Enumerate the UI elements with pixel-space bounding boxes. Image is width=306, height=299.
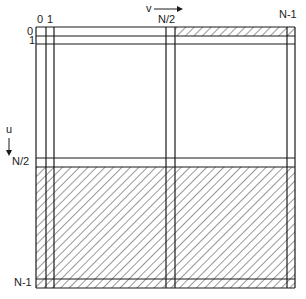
fft-grid-diagram: 0 1 N/2 N-1 0 1 N/2 N-1 v u (0, 0, 306, 299)
col-label-n1: N-1 (279, 8, 297, 20)
axis-u-label: u (6, 123, 12, 135)
right-arrow-icon (154, 6, 183, 12)
row-label-n1: N-1 (14, 276, 32, 288)
col-label-0: 0 (37, 13, 43, 25)
col-label-n2: N/2 (158, 13, 175, 25)
row-label-1: 1 (29, 34, 35, 46)
axis-v-label: v (146, 2, 152, 14)
hatched-top-right-row (175, 27, 295, 36)
col-label-1: 1 (47, 13, 53, 25)
row-label-n2: N/2 (12, 155, 29, 167)
down-arrow-icon (6, 138, 12, 156)
